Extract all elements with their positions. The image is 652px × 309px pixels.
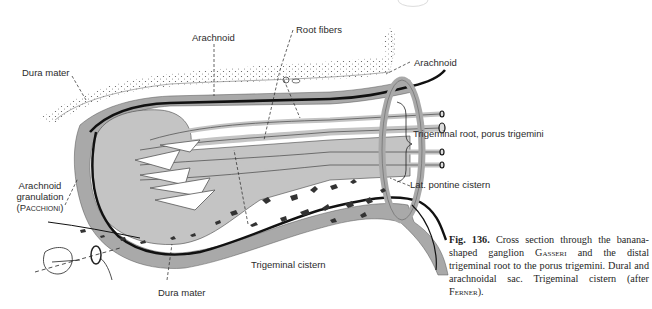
orientation-sketch xyxy=(35,246,120,280)
label-arachnoid-granulation-line1: Arachnoid xyxy=(10,180,70,191)
label-trigeminal-root: Trigeminal root, porus trigemini xyxy=(413,128,544,139)
figure-number: Fig. 136. xyxy=(449,234,490,245)
root-ends xyxy=(439,111,445,168)
label-arachnoid-right: Arachnoid xyxy=(414,57,457,68)
label-root-fibers: Root fibers xyxy=(296,24,342,35)
label-dura-mater-top: Dura mater xyxy=(22,67,70,78)
label-arachnoid-granulation-line3: (Pacchioni) xyxy=(10,202,70,213)
caption-ferner: Ferner xyxy=(449,286,478,297)
caption-text-3: ). xyxy=(478,286,484,297)
label-arachnoid-top: Arachnoid xyxy=(192,32,235,43)
label-dura-mater-bottom: Dura mater xyxy=(158,287,206,298)
caption-gasseri: Gasseri xyxy=(535,247,566,258)
figure-caption: Fig. 136. Cross section through the bana… xyxy=(449,233,649,298)
anatomical-figure: Dura mater Arachnoid Root fibers Arachno… xyxy=(0,0,652,309)
label-trigeminal-cistern: Trigeminal cistern xyxy=(251,259,326,270)
label-arachnoid-granulation: Arachnoid granulation (Pacchioni) xyxy=(10,180,70,213)
label-arachnoid-granulation-line2: granulation xyxy=(10,191,70,202)
label-lat-pontine-cistern: Lat. pontine cistern xyxy=(410,179,490,190)
